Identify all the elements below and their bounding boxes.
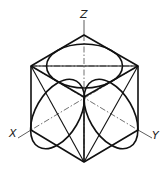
isometric-cube-diagram: Z X Y <box>0 0 168 173</box>
z-axis-label: Z <box>79 8 88 21</box>
x-axis-line <box>18 130 31 138</box>
y-axis-label: Y <box>152 129 160 142</box>
x-axis-label: X <box>8 127 17 140</box>
y-axis-line <box>138 130 152 138</box>
